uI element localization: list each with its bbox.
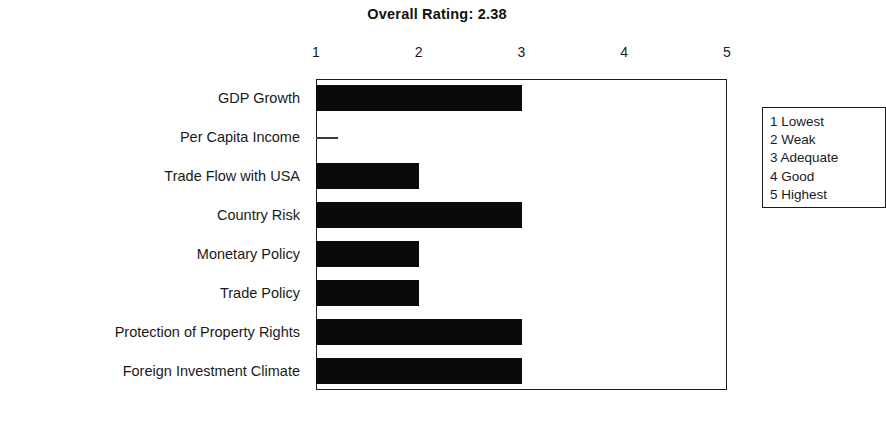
bar bbox=[316, 137, 338, 139]
bar bbox=[316, 241, 419, 267]
legend-item: 5 Highest bbox=[770, 186, 885, 204]
chart-title: Overall Rating: 2.38 bbox=[0, 6, 874, 22]
x-tick-label: 4 bbox=[620, 44, 628, 60]
category-label: Trade Policy bbox=[220, 286, 300, 301]
bar-row bbox=[316, 280, 727, 306]
category-label: Country Risk bbox=[217, 208, 300, 223]
x-tick-label: 3 bbox=[518, 44, 526, 60]
bar-row bbox=[316, 163, 727, 189]
bar-row bbox=[316, 202, 727, 228]
bar bbox=[316, 319, 522, 345]
category-axis-labels: GDP GrowthPer Capita IncomeTrade Flow wi… bbox=[0, 79, 308, 390]
bar-row bbox=[316, 85, 727, 111]
category-label: Protection of Property Rights bbox=[115, 325, 300, 340]
bar bbox=[316, 85, 522, 111]
x-tick-label: 2 bbox=[415, 44, 423, 60]
x-axis: 12345 bbox=[316, 44, 729, 80]
bar-row bbox=[316, 319, 727, 345]
legend-item: 2 Weak bbox=[770, 131, 885, 149]
legend-item: 4 Good bbox=[770, 168, 885, 186]
category-label: GDP Growth bbox=[218, 91, 300, 106]
x-tick-label: 5 bbox=[723, 44, 731, 60]
bar bbox=[316, 163, 419, 189]
legend: 1 Lowest2 Weak3 Adequate4 Good5 Highest bbox=[762, 107, 886, 208]
bar-row bbox=[316, 124, 727, 150]
bar-row bbox=[316, 241, 727, 267]
category-label: Per Capita Income bbox=[180, 130, 300, 145]
category-label: Monetary Policy bbox=[197, 247, 300, 262]
legend-item: 1 Lowest bbox=[770, 113, 885, 131]
legend-item: 3 Adequate bbox=[770, 149, 885, 167]
bar-row bbox=[316, 358, 727, 384]
bar bbox=[316, 358, 522, 384]
x-tick-label: 1 bbox=[312, 44, 320, 60]
category-label: Foreign Investment Climate bbox=[123, 364, 300, 379]
category-label: Trade Flow with USA bbox=[164, 169, 300, 184]
bars-layer bbox=[316, 79, 727, 390]
bar bbox=[316, 280, 419, 306]
bar bbox=[316, 202, 522, 228]
